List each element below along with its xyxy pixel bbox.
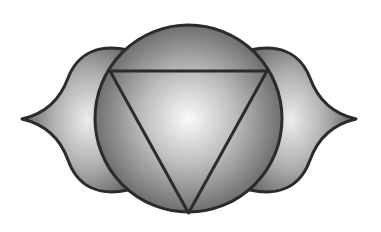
central-circle [95, 25, 282, 212]
ajna-chakra-symbol [0, 0, 381, 232]
